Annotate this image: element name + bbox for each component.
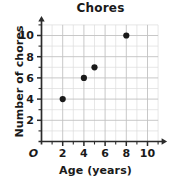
data-point xyxy=(123,32,129,38)
x-tick-label: 8 xyxy=(122,147,130,160)
x-axis-arrowhead xyxy=(162,138,168,144)
x-tick-label: 2 xyxy=(59,147,67,160)
gridlines-major xyxy=(42,25,159,142)
y-tick-label: 8 xyxy=(26,51,34,64)
origin-label: O xyxy=(29,147,38,160)
y-tick-label: 10 xyxy=(19,29,35,42)
x-tick-label: 10 xyxy=(140,147,156,160)
y-tick-label: 6 xyxy=(26,72,34,85)
gridlines-minor xyxy=(42,25,159,142)
x-tick-label: 4 xyxy=(80,147,88,160)
axis-ticks xyxy=(37,25,158,146)
scatter-plot-figure: Chores Number of chores Age (years) 2468… xyxy=(0,0,169,185)
data-point xyxy=(60,96,66,102)
x-tick-label: 6 xyxy=(101,147,109,160)
data-point xyxy=(81,75,87,81)
axis-tick-labels: 246810246810O xyxy=(19,29,156,160)
data-point xyxy=(91,64,97,70)
y-tick-label: 2 xyxy=(26,114,34,127)
plot-area: 246810246810O xyxy=(0,0,169,185)
y-axis-arrowhead xyxy=(38,16,44,22)
y-tick-label: 4 xyxy=(26,93,34,106)
